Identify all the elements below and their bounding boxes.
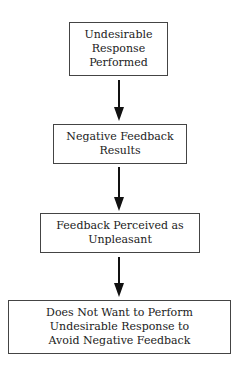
node-text: Performed <box>85 56 153 70</box>
node-negative-feedback-results: Negative Feedback Results <box>53 124 187 164</box>
node-text: Results <box>66 144 173 158</box>
node-text: Undesirable <box>85 28 153 42</box>
node-text: Negative Feedback <box>66 130 173 144</box>
node-text: Response <box>85 42 153 56</box>
arrow-down-icon <box>117 80 122 122</box>
node-feedback-perceived-unpleasant: Feedback Perceived as Unpleasant <box>40 213 200 253</box>
node-text: Avoid Negative Feedback <box>46 334 193 348</box>
arrow-down-icon <box>117 167 122 212</box>
node-text: Undesirable Response to <box>46 320 193 334</box>
node-avoid-negative-feedback: Does Not Want to Perform Undesirable Res… <box>8 300 231 354</box>
node-text: Unpleasant <box>56 233 183 247</box>
node-text: Does Not Want to Perform <box>46 306 193 320</box>
node-undesirable-response-performed: Undesirable Response Performed <box>69 22 168 76</box>
node-text: Feedback Perceived as <box>56 219 183 233</box>
arrow-down-icon <box>117 257 122 298</box>
